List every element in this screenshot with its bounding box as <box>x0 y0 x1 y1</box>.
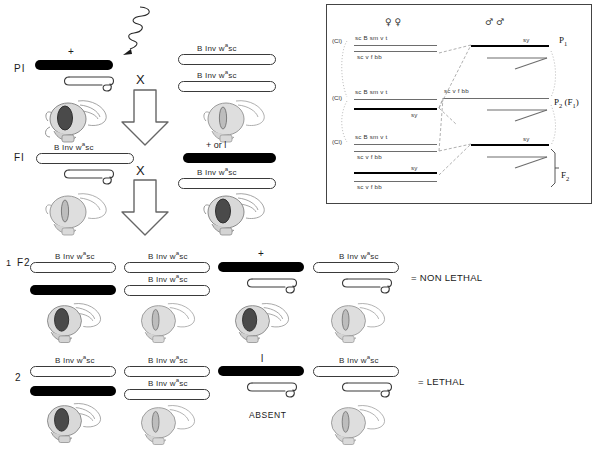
f1-male-chromosome-2 <box>178 178 276 189</box>
f2-r2-g3-chromosome-black <box>218 366 304 376</box>
f2-r1-g2-chromosome-label-1: B Inv wasc <box>148 250 188 261</box>
p1-male-chromosome-label-1: B Inv wasc <box>197 42 237 53</box>
f2-r2-g2-chromosome-1 <box>124 366 210 377</box>
inset-pedigree-box: ♀ ♀ ♂ ♂ (Cl) sc B sm v t sc v f bb sy P1… <box>326 4 592 204</box>
cross-symbol-2: X <box>136 163 145 178</box>
p1-generation-label: PI <box>14 63 25 74</box>
f2-r1-g3-y-chromosome <box>245 276 301 298</box>
f2-r1-g1-chromosome-black <box>30 285 116 295</box>
f2-r2-g2-chromosome-2 <box>124 389 210 400</box>
f1-female-attached-x-chromosome <box>62 167 118 189</box>
fly-icon-bar-eye <box>38 400 106 450</box>
p1-wildtype-allele-label: + <box>68 46 74 57</box>
f1-male-chromosome-black <box>183 153 276 163</box>
fly-icon-light-eye <box>322 300 390 352</box>
f2-r1-g3-allele-label: + <box>258 248 264 259</box>
f1-female-chromosome-1 <box>36 153 134 164</box>
f2-row1-stage-label: F2 <box>17 257 31 268</box>
f2-r1-g4-y-chromosome <box>340 276 396 298</box>
f2-r1-g4-chromosome-1 <box>313 262 399 273</box>
f2-r1-g1-chromosome-label: B Inv wasc <box>55 250 95 261</box>
p1-male-chromosome-label-2: B Inv wasc <box>197 69 237 80</box>
down-arrow-2 <box>120 178 170 238</box>
f2-row1-result-label: = NON LETHAL <box>411 272 482 283</box>
f2-r1-g2-chromosome-1 <box>124 262 210 273</box>
p1-female-attached-x-chromosome <box>62 74 118 96</box>
f2-r1-g3-chromosome-black <box>218 262 304 272</box>
f2-r1-g2-chromosome-label-2: B Inv wasc <box>148 273 188 284</box>
f2-row1-number: 1 <box>6 258 12 268</box>
f1-male-allele-label: + or l <box>206 140 226 150</box>
fly-icon-light-eye <box>132 402 200 450</box>
p1-female-chromosome-black <box>35 60 113 70</box>
f2-row2-result-label: = LETHAL <box>418 376 465 387</box>
p1-male-chromosome-2 <box>178 81 276 92</box>
f2-r2-g4-y-chromosome <box>340 380 396 402</box>
inset-connector-lines <box>327 5 593 205</box>
f2-r2-g2-chromosome-label-1: B Inv wasc <box>148 354 188 365</box>
down-arrow-1 <box>120 88 170 148</box>
f2-r2-g1-chromosome-label: B Inv wasc <box>55 354 95 365</box>
fly-icon-light-eye <box>132 300 200 352</box>
f2-r2-g1-chromosome-1 <box>30 366 116 377</box>
mutagen-squiggle-arrow-icon <box>96 5 156 60</box>
f1-male-chromosome-label-2: B Inv wasc <box>197 166 237 177</box>
f2-r2-g1-chromosome-black <box>30 386 116 396</box>
f2-r1-g1-chromosome-1 <box>30 262 116 273</box>
fly-icon-bar-eye <box>226 300 294 352</box>
cross-symbol-1: X <box>136 72 145 87</box>
p1-male-chromosome-1 <box>178 54 276 65</box>
f2-r1-g2-chromosome-2 <box>124 285 210 296</box>
f2-r1-g4-chromosome-label: B Inv wasc <box>339 250 379 261</box>
f2-r2-g3-y-chromosome <box>245 380 301 402</box>
fly-icon-light-eye <box>322 402 390 450</box>
f2-row2-number: 2 <box>15 372 22 383</box>
f2-r2-g4-chromosome-label: B Inv wasc <box>339 354 379 365</box>
f2-r2-g4-chromosome-1 <box>313 366 399 377</box>
f2-r2-g2-chromosome-label-2: B Inv wasc <box>148 377 188 388</box>
f1-female-chromosome-label: B Inv wasc <box>54 141 94 152</box>
f1-generation-label: FI <box>14 152 25 163</box>
f2-r2-g3-absent-label: ABSENT <box>249 410 287 420</box>
fly-icon-light-eye <box>40 190 112 245</box>
fly-icon-bar-eye <box>38 300 106 352</box>
fly-icon-bar-eye <box>198 190 270 245</box>
f2-r2-g3-lethal-allele-label: l <box>261 353 263 364</box>
